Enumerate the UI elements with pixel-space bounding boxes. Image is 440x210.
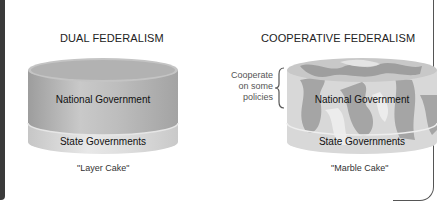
marble-cake-national-label: National Government — [287, 94, 437, 105]
marble-cake-caption: "Marble Cake" — [331, 163, 388, 173]
layer-cake-national-label: National Government — [28, 94, 178, 105]
layer-cake-state-label: State Governments — [28, 136, 178, 147]
brace-icon — [275, 68, 284, 108]
cooperate-note: Cooperate on some policies — [230, 70, 273, 103]
cooperative-federalism-title: COOPERATIVE FEDERALISM — [261, 32, 415, 44]
cooperate-note-line: on some — [230, 81, 273, 92]
marble-cake-state-label: State Governments — [287, 136, 437, 147]
cooperate-note-line: Cooperate — [230, 70, 273, 81]
cooperate-note-line: policies — [230, 92, 273, 103]
dual-federalism-title: DUAL FEDERALISM — [60, 32, 164, 44]
layer-cake-caption: "Layer Cake" — [77, 163, 129, 173]
